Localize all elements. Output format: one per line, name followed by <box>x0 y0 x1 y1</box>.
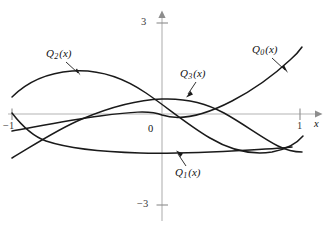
x-tick-label-1: 1 <box>297 121 302 132</box>
curve-label-q2: Q2(x) <box>46 48 71 61</box>
curve-label-q2-paren: (x) <box>58 47 71 59</box>
y-tick-label-minus-3: −3 <box>137 199 148 210</box>
x-axis-arrowhead <box>315 110 323 117</box>
curve-label-q2-text: Q <box>46 47 54 59</box>
curve-label-q0: Q0(x) <box>252 44 277 57</box>
leader-line-q1 <box>178 154 186 166</box>
curve-label-q3-paren: (x) <box>192 67 205 79</box>
curve-label-q1: Q1(x) <box>175 167 200 180</box>
leader-line-q3 <box>188 82 196 94</box>
curve-label-q3-text: Q <box>180 67 188 79</box>
leader-line-q0 <box>272 58 285 70</box>
x-axis-label: x <box>314 119 319 130</box>
y-tick-label-3: 3 <box>141 17 146 28</box>
x-tick-label-minus-1: −1 <box>3 121 14 132</box>
curve-label-q3: Q3(x) <box>180 68 205 81</box>
curve-label-q1-text: Q <box>175 166 183 178</box>
y-axis-arrowhead <box>158 11 165 19</box>
curve-label-q1-paren: (x) <box>187 166 200 178</box>
curve-label-q0-text: Q <box>252 43 260 55</box>
curve-q2 <box>12 71 303 153</box>
leader-arrowhead-q0 <box>282 65 288 73</box>
curve-label-q0-paren: (x) <box>264 43 277 55</box>
origin-label: 0 <box>148 124 153 135</box>
polynomial-plot-figure: Q2(x) Q3(x) Q0(x) Q1(x) 3 −3 −1 1 0 x <box>0 0 325 226</box>
plot-canvas <box>0 0 325 226</box>
